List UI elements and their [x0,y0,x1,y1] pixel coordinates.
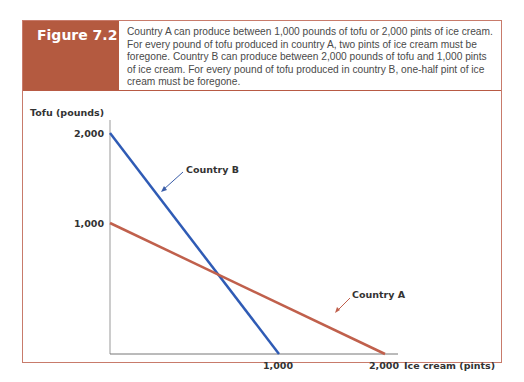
x-tick-2000: 2,000 [369,360,399,371]
country-b-arrow [163,172,183,190]
x-tick-1000: 1,000 [263,360,293,371]
x-axis-label: Ice cream (pints) [404,360,495,371]
y-tick-2000: 2,000 [74,128,104,139]
ppf-chart: Tofu (pounds) 2,000 1,000 1,000 2,000 Ic… [0,0,524,382]
country-b-label: Country B [186,164,239,175]
y-axis-label: Tofu (pounds) [30,107,104,118]
country-a-arrowhead-icon [335,307,340,313]
country-a-label: Country A [352,289,406,300]
y-tick-1000: 1,000 [74,218,104,229]
country-a-line [110,223,385,354]
